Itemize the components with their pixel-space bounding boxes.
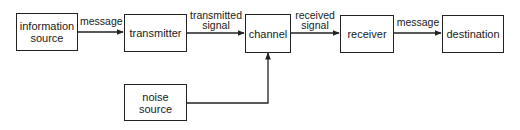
node-label: receiver: [347, 28, 386, 40]
node-transmitter: transmitter: [124, 14, 187, 52]
node-information-source: informationsource: [16, 13, 78, 51]
node-label: destination: [446, 28, 499, 40]
node-label: information: [20, 20, 74, 32]
edge-label-received-signal: receivedsignal: [292, 10, 338, 30]
edge-label-transmitted-signal: transmittedsignal: [188, 10, 244, 30]
node-noise-source: noisesource: [124, 84, 187, 121]
node-label: noise: [142, 91, 168, 103]
node-destination: destination: [442, 15, 504, 53]
edge-label-line: signal: [301, 19, 328, 31]
node-label: transmitter: [130, 27, 182, 39]
node-label: channel: [249, 28, 288, 40]
edge-label-message-1: message: [80, 16, 122, 26]
node-label: source: [139, 103, 172, 115]
arrow-noise: [186, 53, 268, 103]
node-channel: channel: [245, 14, 291, 53]
edge-label-message-2: message: [396, 17, 440, 27]
edge-label-line: signal: [202, 19, 229, 31]
node-label: source: [30, 32, 63, 44]
node-receiver: receiver: [340, 15, 394, 53]
